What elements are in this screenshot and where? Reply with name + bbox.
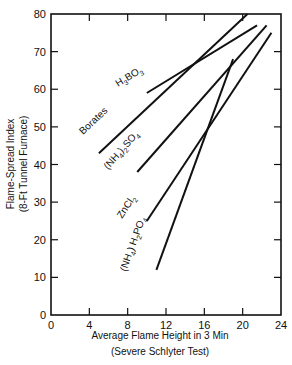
series-labels: H3BO3Borates(NH4)2SO4ZnCl2(NH4) H2PO4 bbox=[77, 64, 150, 274]
plot-frame: 0481216202401020304050607080 bbox=[34, 8, 287, 331]
y-axis-sublabel: (8-Ft Tunnel Furnace) bbox=[18, 116, 29, 213]
series-label: (NH4) H2PO4 bbox=[118, 215, 150, 273]
x-tick-label: 24 bbox=[275, 319, 287, 331]
series-label: Borates bbox=[77, 105, 110, 137]
plot-border bbox=[51, 14, 281, 315]
y-tick-label: 30 bbox=[34, 196, 46, 208]
x-tick-label: 20 bbox=[237, 319, 249, 331]
y-axis-label: Flame-Spread Index bbox=[5, 119, 16, 210]
x-axis-sublabel: (Severe Schlyter Test) bbox=[111, 346, 209, 357]
y-tick-label: 0 bbox=[40, 309, 46, 321]
y-tick-label: 50 bbox=[34, 121, 46, 133]
series-label: (NH4)2SO4 bbox=[101, 129, 142, 173]
series-line bbox=[147, 25, 257, 93]
y-tick-label: 40 bbox=[34, 159, 46, 171]
y-tick-label: 70 bbox=[34, 46, 46, 58]
series-label: ZnCl2 bbox=[114, 193, 139, 221]
chart: 0481216202401020304050607080 H3BO3Borate… bbox=[0, 0, 292, 365]
series-label: H3BO3 bbox=[113, 64, 145, 91]
y-tick-label: 10 bbox=[34, 271, 46, 283]
x-tick-label: 0 bbox=[48, 319, 54, 331]
x-axis-label: Average Flame Height in 3 Min bbox=[91, 330, 228, 341]
y-tick-label: 20 bbox=[34, 234, 46, 246]
y-tick-label: 80 bbox=[34, 8, 46, 20]
y-tick-label: 60 bbox=[34, 83, 46, 95]
series-line bbox=[156, 59, 233, 270]
